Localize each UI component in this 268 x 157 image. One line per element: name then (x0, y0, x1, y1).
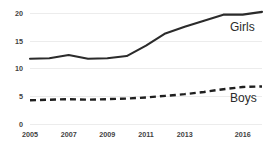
x-axis-tick-labels: 200520072009201120132016 (22, 130, 251, 139)
line-chart: 05101520 200520072009201120132016 GirlsB… (0, 0, 268, 157)
chart-canvas: 05101520 200520072009201120132016 GirlsB… (0, 0, 268, 157)
y-tick-label-10: 10 (15, 64, 23, 73)
x-tick-label-2013: 2013 (177, 130, 193, 139)
y-tick-label-15: 15 (15, 37, 23, 46)
gridlines (30, 14, 262, 124)
x-tick-label-2011: 2011 (138, 130, 154, 139)
x-tick-label-2005: 2005 (22, 130, 38, 139)
y-tick-label-5: 5 (19, 92, 23, 101)
series-label-girls: Girls (230, 20, 255, 34)
x-tick-label-2009: 2009 (99, 130, 115, 139)
series-group (30, 12, 262, 100)
x-tick-label-2007: 2007 (61, 130, 77, 139)
series-inline-labels: GirlsBoys (230, 20, 257, 106)
series-label-boys: Boys (230, 91, 257, 105)
x-tick-label-2016: 2016 (235, 130, 251, 139)
series-line-boys (30, 86, 262, 100)
y-tick-label-0: 0 (19, 120, 23, 129)
y-tick-label-20: 20 (15, 9, 23, 18)
y-axis-tick-labels: 05101520 (15, 9, 23, 128)
series-line-girls (30, 12, 262, 59)
